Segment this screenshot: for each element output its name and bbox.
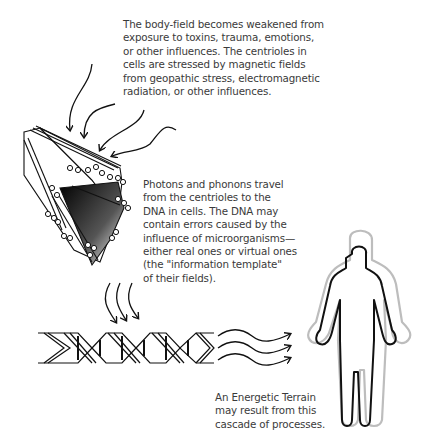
photon-arrows — [105, 283, 138, 322]
transmission-arrows — [218, 330, 290, 365]
caption-photons-phonons: Photons and phonons travel from the cent… — [143, 178, 303, 285]
caption-energetic-terrain: An Energetic Terrain may result from thi… — [215, 391, 355, 431]
caption-body-field: The body-field becomes weakened from exp… — [123, 18, 353, 98]
centriole-icon — [24, 126, 131, 265]
dna-helix-icon — [38, 333, 214, 363]
